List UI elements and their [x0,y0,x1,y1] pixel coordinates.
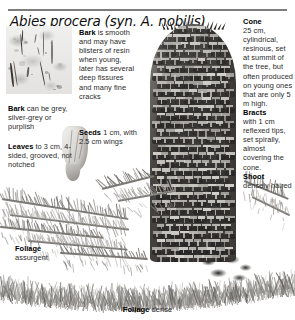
callout-cone-lead: Cone [243,17,293,26]
caption-foliage-dense-lead: Foliage [123,305,150,314]
callout-seeds-lead: Seeds [79,128,101,137]
callout-foliage-assurgent-text: assurgent [15,253,48,262]
noble-fir-cone-illustration [150,14,236,262]
callout-leaves: Leaves to 3 cm, 4-sided, grooved, not no… [8,142,74,169]
callout-bark-top-lead: Bark [79,28,96,37]
callout-shoot-text: densely haired [243,181,292,190]
callout-bark-top: Bark is smooth and may have blisters of … [79,28,137,101]
callout-cone: Cone 25 cm, cylindrical, resinous, set a… [243,17,293,190]
callout-leaves-lead: Leaves [8,142,33,151]
callout-cone-text: 25 cm, cylindrical, resinous, set at sum… [243,26,293,108]
callout-bark-left-lead: Bark [8,104,25,113]
callout-seeds: Seeds 1 cm, with 2.5 cm wings [79,128,137,146]
callout-bark-top-text: is smooth and may have blisters of resin… [79,28,134,101]
header-divider [8,9,287,11]
callout-bark-left: Bark can be grey, silver-grey or purplis… [8,104,74,131]
callout-shoot-lead: Shoot [243,172,293,181]
bark-texture-illustration [6,26,72,94]
callout-foliage-assurgent-lead: Foliage [15,244,75,253]
caption-foliage-dense: Foliage dense [0,305,295,314]
field-guide-page: Abies procera (syn. A. nobilis) Bark is … [0,0,295,320]
callout-foliage-assurgent: Foliage assurgent [15,244,75,262]
cone-body [150,24,236,262]
callout-bracts-lead: Bracts [243,108,293,117]
caption-foliage-dense-text: dense [149,305,172,314]
callout-bracts-text: with 1 cm reflexed tips, set spirally, a… [243,117,286,171]
foliage-spray [252,196,291,216]
